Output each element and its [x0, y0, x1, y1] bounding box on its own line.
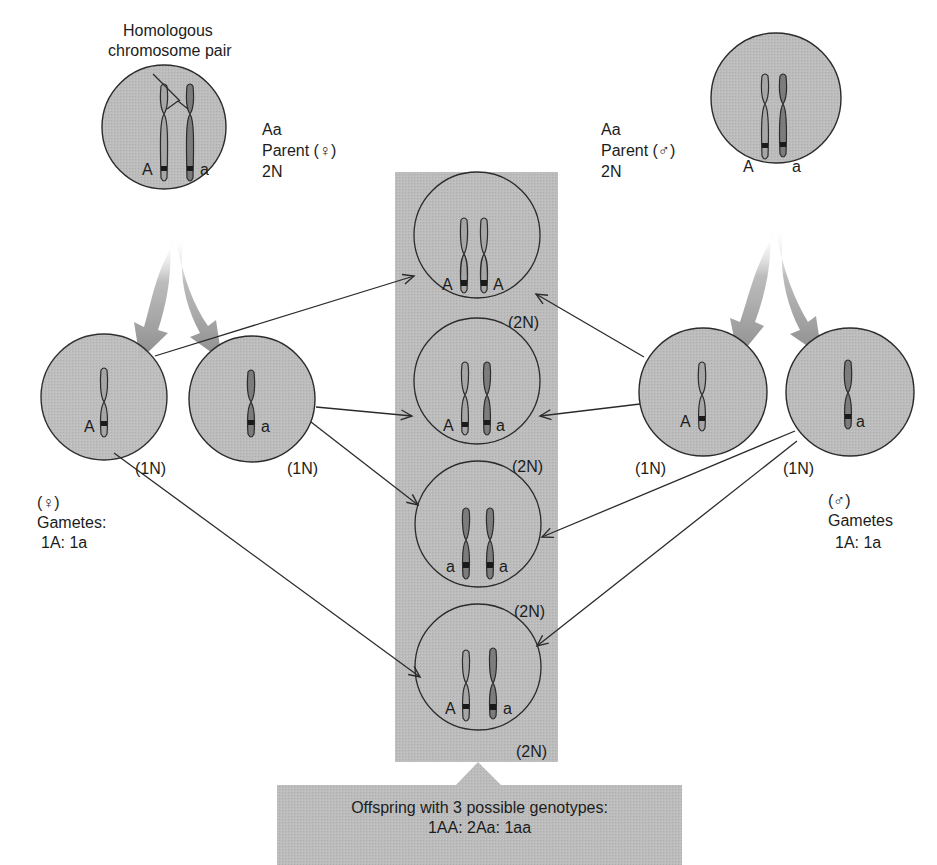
male-parent-ploidy: 2N: [601, 162, 621, 182]
svg-text:A: A: [142, 161, 153, 178]
female-gametes-title: Gametes:: [37, 513, 106, 533]
svg-text:a: a: [200, 161, 209, 178]
female-gamete-a: a (1N): [189, 336, 318, 477]
arrow-ma-to-Aa2: [537, 441, 797, 646]
male-meiosis-arrows: [730, 232, 822, 358]
svg-text:(2N): (2N): [516, 743, 547, 760]
svg-text:a: a: [856, 413, 865, 430]
svg-text:(1N): (1N): [635, 460, 666, 477]
svg-text:(1N): (1N): [135, 460, 166, 477]
summary-line2: 1AA: 2Aa: 1aa: [277, 818, 682, 838]
summary-text: Offspring with 3 possible genotypes: 1AA…: [277, 798, 682, 838]
svg-text:A: A: [743, 158, 754, 175]
svg-text:a: a: [446, 558, 455, 575]
chromosome-icon: [186, 84, 193, 181]
female-gametes-ratio: 1A: 1a: [41, 533, 87, 553]
svg-text:A: A: [493, 276, 504, 293]
svg-text:(2N): (2N): [512, 458, 543, 475]
male-parent-label: Parent (♂): [601, 141, 675, 161]
female-gametes-symbol: (♀): [37, 493, 60, 513]
arrow-ma-to-aa: [542, 431, 795, 537]
female-parent-label: Parent (♀): [262, 141, 336, 161]
female-parent-cell: A a: [102, 65, 226, 189]
male-gametes-ratio: 1A: 1a: [835, 533, 881, 553]
male-parent-cell: A a: [711, 33, 841, 175]
svg-text:(1N): (1N): [783, 460, 814, 477]
svg-text:(1N): (1N): [287, 460, 318, 477]
homologous-label-line1: Homologous: [123, 21, 213, 41]
svg-text:a: a: [792, 158, 801, 175]
svg-text:a: a: [261, 418, 270, 435]
chromosome-icon: [160, 84, 167, 181]
svg-text:(2N): (2N): [514, 603, 545, 620]
svg-text:A: A: [442, 276, 453, 293]
svg-text:a: a: [496, 417, 505, 434]
svg-text:A: A: [680, 413, 691, 430]
meiosis-diagram: A a A a A (1N) a (1N): [0, 0, 937, 865]
svg-text:A: A: [443, 417, 454, 434]
male-gametes-symbol: (♂): [828, 491, 851, 511]
arrow-fA-to-Aa2: [114, 453, 420, 677]
female-meiosis-arrows: [134, 240, 222, 360]
svg-text:A: A: [84, 418, 95, 435]
summary-line1: Offspring with 3 possible genotypes:: [277, 798, 682, 818]
male-gametes-title: Gametes: [828, 511, 893, 531]
male-gamete-a: a (1N): [783, 328, 914, 477]
homologous-label-line2: chromosome pair: [108, 41, 232, 61]
svg-text:a: a: [499, 558, 508, 575]
female-parent-ploidy: 2N: [262, 162, 282, 182]
female-parent-genotype: Aa: [262, 120, 282, 140]
svg-text:a: a: [503, 700, 512, 717]
male-gamete-A: A (1N): [635, 328, 767, 477]
svg-text:A: A: [445, 700, 456, 717]
summary-pointer: [455, 762, 502, 786]
male-parent-genotype: Aa: [601, 120, 621, 140]
female-gamete-A: A (1N): [41, 334, 167, 477]
